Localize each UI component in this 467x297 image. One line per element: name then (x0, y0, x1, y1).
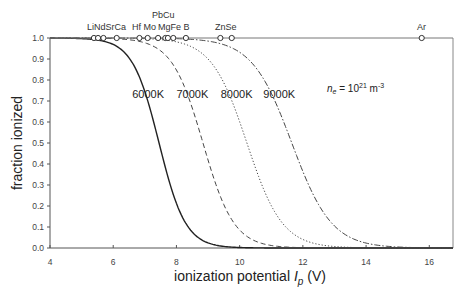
element-marker-Ar (419, 35, 424, 40)
curve-7000K (50, 38, 453, 248)
x-tick-label: 14 (361, 257, 371, 267)
element-marker-Fe (171, 35, 176, 40)
element-marker-Se (229, 35, 234, 40)
x-tick-label: 4 (48, 257, 53, 267)
element-marker-Cu (165, 35, 170, 40)
curve-label-9000K: 9000K (263, 88, 295, 100)
curve-9000K (50, 38, 453, 248)
electron-density-annotation: ne = 1021 m-3 (327, 82, 384, 95)
element-label: PbCu (152, 10, 175, 20)
y-axis-ticks: 0.00.10.20.30.40.50.60.70.80.91.0 (32, 33, 50, 253)
plot-axes (50, 38, 453, 248)
y-tick-label: 0.5 (32, 138, 44, 148)
element-marker-Ca (114, 35, 119, 40)
x-tick-label: 8 (174, 257, 179, 267)
element-marker-Sr (101, 35, 106, 40)
x-tick-label: 6 (111, 257, 116, 267)
element-marker-Nd (95, 35, 100, 40)
element-marker-Hf (137, 35, 142, 40)
x-tick-label: 12 (298, 257, 308, 267)
element-marker-Pb (155, 35, 160, 40)
element-label: Ar (417, 22, 426, 32)
element-label: MgFe B (158, 22, 190, 32)
element-markers (50, 35, 453, 40)
y-tick-label: 0.8 (32, 75, 44, 85)
element-marker-Zn (218, 35, 223, 40)
element-labels: LiNdSrCaHf MoPbCuMgFe BZnSeAr (87, 10, 426, 32)
element-marker-Mo (145, 35, 150, 40)
y-tick-label: 0.4 (32, 159, 44, 169)
temperature-curves (50, 38, 453, 248)
y-axis-title: fraction ionized (9, 96, 25, 190)
element-label: LiNdSrCa (87, 22, 126, 32)
y-tick-label: 0.1 (32, 222, 44, 232)
element-marker-B (183, 35, 188, 40)
curve-6000K (50, 38, 453, 248)
curve-labels: 6000K7000K8000K9000K (132, 88, 296, 100)
y-tick-label: 0.2 (32, 201, 44, 211)
y-tick-label: 0.3 (32, 180, 44, 190)
curve-label-7000K: 7000K (176, 88, 208, 100)
y-tick-label: 1.0 (32, 33, 44, 43)
curve-label-6000K: 6000K (132, 88, 164, 100)
y-tick-label: 0.0 (32, 243, 44, 253)
x-tick-label: 10 (235, 257, 245, 267)
element-label: ZnSe (215, 22, 237, 32)
y-tick-label: 0.7 (32, 96, 44, 106)
element-label: Hf Mo (132, 22, 156, 32)
curve-label-8000K: 8000K (221, 88, 253, 100)
ionization-fraction-chart: 0.00.10.20.30.40.50.60.70.80.91.0 468101… (0, 0, 467, 297)
y-tick-label: 0.9 (32, 54, 44, 64)
y-tick-label: 0.6 (32, 117, 44, 127)
x-axis-title: ionization potential Ip (V) (174, 268, 326, 287)
curve-8000K (50, 38, 453, 248)
x-tick-label: 16 (425, 257, 435, 267)
